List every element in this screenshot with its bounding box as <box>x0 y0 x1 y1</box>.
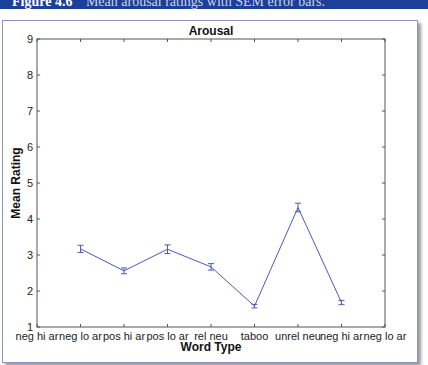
y-tick-label: 6 <box>27 141 33 153</box>
x-tick-label: unrel neu <box>275 330 321 342</box>
chart-title: Arousal <box>189 24 234 38</box>
x-tick-label: pos hi ar <box>103 330 146 342</box>
x-tick-label: neg lo ar <box>364 330 407 342</box>
data-series <box>78 203 345 308</box>
arousal-line-chart: Arousal 123456789 neg hi arneg lo arpos … <box>0 0 428 365</box>
x-axis-label: Word Type <box>181 340 242 354</box>
y-axis-label: Mean Rating <box>9 147 23 218</box>
x-tick-label: neg hi ar <box>320 330 363 342</box>
x-tick-label: neg hi ar <box>16 330 59 342</box>
y-tick-label: 2 <box>27 285 33 297</box>
y-tick-label: 7 <box>27 105 33 117</box>
y-axis-ticks: 123456789 <box>27 33 385 333</box>
x-tick-label: taboo <box>241 330 269 342</box>
y-tick-label: 8 <box>27 69 33 81</box>
data-line <box>81 207 342 306</box>
y-tick-label: 9 <box>27 33 33 45</box>
x-tick-label: neg lo ar <box>59 330 102 342</box>
y-tick-label: 4 <box>27 213 33 225</box>
y-tick-label: 3 <box>27 249 33 261</box>
y-tick-label: 5 <box>27 177 33 189</box>
x-axis-ticks: neg hi arneg lo arpos hi arpos lo arrel … <box>16 39 407 342</box>
